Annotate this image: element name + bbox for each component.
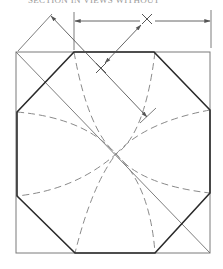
x-mark-top [142, 14, 152, 24]
diagonal-extension-line-2 [140, 108, 156, 123]
diagonal-extension-line-1 [18, 14, 52, 51]
x-mark-inner [96, 63, 106, 73]
leader-line [105, 25, 141, 63]
octagon-construction-diagram [0, 0, 223, 269]
arc-top-right-corner [74, 52, 155, 253]
